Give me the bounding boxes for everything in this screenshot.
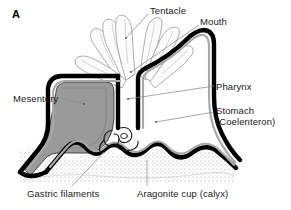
leader-stomach (156, 112, 214, 122)
label-aragonite-cup: Aragonite cup (calyx) (137, 188, 228, 199)
label-mouth: Mouth (200, 16, 227, 27)
label-stomach-line2: (Coelenteron) (216, 116, 275, 127)
leader-pharynx (128, 86, 214, 99)
coral-polyp-figure: A (0, 0, 291, 210)
label-stomach: Stomach (Coelenteron) (216, 105, 275, 127)
label-tentacle: Tentacle (150, 5, 186, 16)
label-stomach-line1: Stomach (216, 105, 275, 116)
label-mesentery: Mesentery (13, 93, 58, 104)
label-gastric-filaments: Gastric filaments (27, 188, 99, 199)
label-pharynx: Pharynx (216, 81, 252, 92)
